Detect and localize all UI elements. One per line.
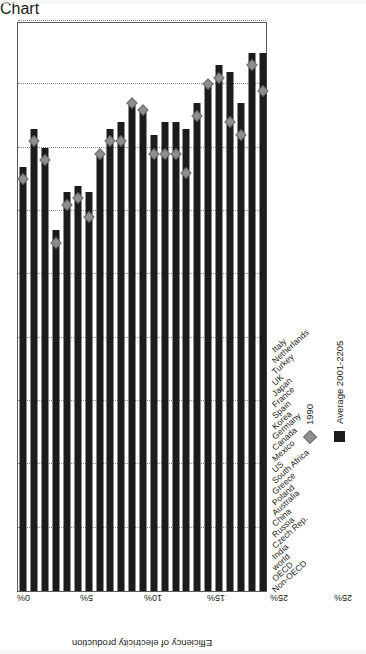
bar-australia [96, 154, 103, 591]
legend-item-average-2001-2205: Average 2001-2205 [334, 341, 345, 442]
legend-square-icon [334, 431, 345, 442]
legend-diamond-icon [302, 430, 316, 444]
bar-row [61, 23, 72, 591]
bar-poland [107, 129, 114, 591]
bar-us [139, 110, 146, 591]
bar-row [203, 23, 214, 591]
bar-row [105, 23, 116, 591]
bar-non-oecd [20, 167, 27, 591]
bar-row [181, 23, 192, 591]
bar-italy [259, 53, 266, 591]
bar-row [83, 23, 94, 591]
bar-turkey [237, 103, 244, 591]
value-axis-tick-labels: 45%40%35%30%25%25%15%10%5%0% [17, 594, 267, 654]
bar-row [170, 23, 181, 591]
bar-row [246, 23, 257, 591]
bar-netherlands [248, 53, 255, 591]
bar-germany [172, 122, 179, 591]
bar-row [72, 23, 83, 591]
value-axis-tick-label: 25% [270, 593, 288, 603]
value-axis-tick-label: 15% [207, 593, 225, 603]
bar-oecd [31, 129, 38, 591]
bar-row [148, 23, 159, 591]
bar-chart-figure: Efficiency of electricity production 45%… [0, 0, 366, 654]
gridline [18, 20, 266, 21]
bar-japan [216, 65, 223, 591]
bar-row [116, 23, 127, 591]
value-axis-tick-label: 5% [80, 593, 93, 603]
bar-row [29, 23, 40, 591]
bar-series-layer [18, 23, 266, 591]
bar-row [235, 23, 246, 591]
bar-spain [194, 103, 201, 591]
bar-row [159, 23, 170, 591]
bar-row [40, 23, 51, 591]
bar-row [127, 23, 138, 591]
bar-china [85, 192, 92, 591]
value-axis-tick-label: 10% [144, 593, 162, 603]
bar-france [205, 84, 212, 591]
bar-india [53, 230, 60, 591]
bar-world [42, 148, 49, 591]
bar-south-africa [129, 103, 136, 591]
chart-legend: 1990Average 2001-2205 [300, 22, 360, 592]
bar-mexico [150, 135, 157, 591]
bar-greece [118, 122, 125, 591]
scanned-chart-page: Efficiency of electricity production 45%… [0, 0, 366, 654]
bar-row [94, 23, 105, 591]
legend-label: 1990 [304, 404, 315, 425]
bar-uk [226, 72, 233, 591]
bar-czech-rep [63, 192, 70, 591]
bar-row [192, 23, 203, 591]
bar-russia [74, 186, 81, 591]
bar-korea [183, 129, 190, 591]
legend-label: Average 2001-2205 [334, 341, 345, 424]
bar-canada [161, 122, 168, 591]
bar-row [225, 23, 236, 591]
bar-row [257, 23, 268, 591]
bar-row [214, 23, 225, 591]
plot-area [17, 22, 267, 592]
value-axis-tick-label: 0% [17, 593, 30, 603]
bar-row [51, 23, 62, 591]
rotated-figure-container: Efficiency of electricity production 45%… [0, 0, 366, 654]
bar-row [138, 23, 149, 591]
bar-row [18, 23, 29, 591]
legend-item-1990: 1990 [304, 404, 315, 442]
value-axis-tick-label: 25% [334, 593, 352, 603]
